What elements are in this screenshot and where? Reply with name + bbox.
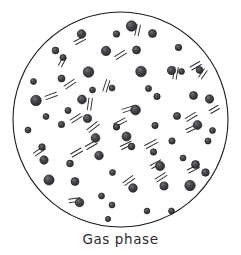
gas-particle (58, 75, 65, 82)
figure-caption: Gas phase (0, 231, 241, 247)
gas-particle (67, 160, 74, 167)
gas-particle (128, 143, 135, 150)
gas-particle (83, 67, 94, 78)
gas-particle (205, 138, 211, 144)
gas-particle (78, 95, 87, 104)
gas-particle (105, 216, 110, 221)
gas-particle (150, 149, 156, 155)
gas-particle (122, 132, 131, 141)
gas-particle (169, 208, 175, 214)
gas-particle (40, 156, 48, 164)
gas-particle (114, 124, 120, 130)
gas-particle (190, 92, 198, 100)
gas-particle (131, 105, 141, 115)
gas-particle (149, 30, 157, 38)
gas-particle (83, 114, 91, 122)
gas-particle (58, 121, 64, 127)
gas-particle (109, 85, 115, 91)
gas-particle (175, 44, 182, 51)
gas-particle (173, 112, 180, 119)
gas-particle (90, 87, 96, 93)
gas-particle (91, 134, 100, 143)
gas-particle (75, 198, 84, 207)
gas-particle (154, 93, 160, 99)
gas-particle (136, 66, 147, 77)
gas-particle (180, 155, 186, 161)
particle-diagram-svg (0, 0, 241, 232)
gas-particle (202, 169, 210, 177)
gas-particle (152, 122, 158, 128)
gas-particle (39, 144, 46, 151)
gas-particle (210, 128, 216, 134)
gas-particle (101, 46, 110, 55)
gas-particle (196, 67, 203, 74)
gas-particle (77, 30, 86, 39)
gas-particle (65, 107, 71, 113)
gas-particle (155, 161, 164, 170)
gas-particle (160, 182, 168, 190)
gas-particle (31, 95, 42, 106)
gas-particle (60, 54, 66, 60)
diagram-canvas (0, 0, 241, 232)
gas-particle (129, 184, 138, 193)
gas-particle (25, 127, 31, 133)
gas-phase-figure: Gas phase (0, 0, 241, 255)
gas-particle (193, 121, 202, 130)
gas-particle (144, 208, 150, 214)
gas-particle (126, 21, 136, 31)
gas-particle (167, 66, 175, 74)
gas-particle (31, 79, 37, 85)
gas-particle (192, 161, 200, 169)
gas-particle (95, 151, 104, 160)
gas-particle (99, 193, 105, 199)
gas-particle (179, 69, 185, 75)
gas-particle (113, 31, 120, 38)
gas-particle (205, 95, 213, 103)
gas-particle (133, 46, 141, 54)
gas-particle (185, 180, 195, 190)
gas-particle (43, 114, 49, 120)
gas-particle (44, 175, 54, 185)
gas-particle (110, 170, 116, 176)
gas-particle (71, 178, 79, 186)
gas-particle (145, 85, 151, 91)
gas-particle (52, 47, 59, 54)
gas-particle (169, 138, 175, 144)
gas-particle (109, 202, 115, 208)
